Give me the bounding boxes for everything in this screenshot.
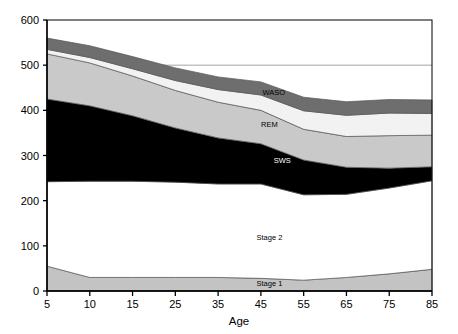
x-tick-label-85: 85 [426, 298, 438, 310]
x-tick-label-5: 5 [44, 298, 50, 310]
x-axis-title: Age [229, 315, 249, 327]
sleep-architecture-chart: 0100200300400500600 5101525354555657585 … [0, 0, 458, 334]
chart-svg: 0100200300400500600 5101525354555657585 … [0, 0, 458, 334]
y-tick-label-300: 300 [21, 150, 39, 162]
series-label-sws: SWS [274, 156, 291, 165]
area-stage-2 [47, 181, 432, 280]
x-tick-label-55: 55 [298, 298, 310, 310]
y-tick-label-500: 500 [21, 59, 39, 71]
y-tick-label-0: 0 [33, 285, 39, 297]
x-tick-label-75: 75 [383, 298, 395, 310]
y-tick-label-100: 100 [21, 240, 39, 252]
y-tick-label-600: 600 [21, 14, 39, 26]
x-tick-label-65: 65 [340, 298, 352, 310]
series-label-sleep-latency: Sleep Latency [280, 68, 328, 77]
x-tick-label-45: 45 [255, 298, 267, 310]
y-tick-label-400: 400 [21, 104, 39, 116]
series-label-stage1: Stage 1 [257, 279, 283, 288]
x-tick-label-10: 10 [84, 298, 96, 310]
y-tick-label-200: 200 [21, 195, 39, 207]
series-label-waso: WASO [262, 88, 285, 97]
x-tick-label-15: 15 [126, 298, 138, 310]
x-tick-label-25: 25 [169, 298, 181, 310]
series-label-rem: REM [261, 120, 278, 129]
x-tick-label-35: 35 [212, 298, 224, 310]
series-label-stage2: Stage 2 [257, 233, 283, 242]
